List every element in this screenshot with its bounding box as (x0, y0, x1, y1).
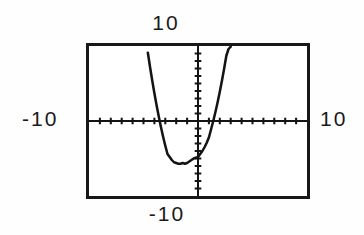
calculator-screen (86, 43, 310, 199)
x-min-label: -10 (22, 108, 58, 129)
parabola-path (148, 47, 231, 164)
parabola-curve (148, 47, 231, 164)
x-max-label: 10 (320, 108, 347, 129)
graphing-calculator-figure: 10 -10 10 -10 (0, 0, 364, 235)
y-min-label: -10 (0, 203, 364, 224)
y-max-label: 10 (0, 12, 364, 33)
plot-canvas (89, 46, 307, 196)
